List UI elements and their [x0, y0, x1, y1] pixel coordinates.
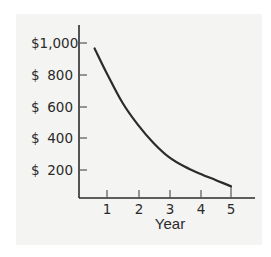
y-tick-labels: $1,000 $ 800 $ 600 $ 400 $ 200	[31, 35, 78, 178]
y-tick-value-600: 600	[47, 99, 73, 115]
y-tick-label-400: $	[31, 130, 40, 146]
data-line	[95, 49, 231, 187]
x-tick-label-2: 2	[135, 201, 144, 217]
chart-svg: $1,000 $ 800 $ 600 $ 400 $ 200 1 2 3 4 5…	[0, 0, 271, 257]
x-ticks	[107, 186, 231, 198]
x-tick-label-5: 5	[227, 201, 236, 217]
y-tick-label-200: $	[31, 162, 40, 178]
y-ticks	[79, 43, 87, 170]
y-tick-label-800: $	[31, 67, 40, 83]
y-tick-label-600: $	[31, 99, 40, 115]
y-tick-value-200: 200	[47, 162, 73, 178]
x-tick-label-4: 4	[197, 201, 206, 217]
y-tick-value-400: 400	[47, 130, 73, 146]
x-axis-title: Year	[155, 215, 185, 232]
y-tick-value-800: 800	[47, 67, 73, 83]
y-tick-label-1000: $1,000	[31, 35, 78, 51]
x-tick-label-1: 1	[103, 201, 112, 217]
